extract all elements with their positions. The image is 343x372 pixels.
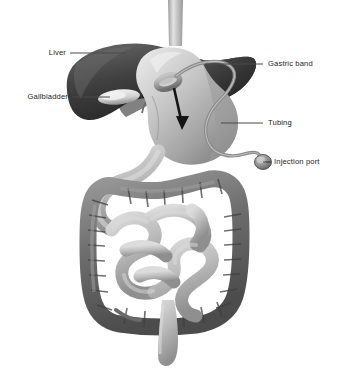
label-tubing: Tubing (268, 118, 292, 127)
label-injection-port: Injection port (274, 157, 320, 166)
esophagus (168, 0, 183, 46)
label-liver: Liver (20, 48, 66, 57)
label-gastric-band: Gastric band (268, 59, 313, 68)
rectum (158, 300, 178, 366)
label-gallbladder: Gallbladder (0, 92, 68, 101)
